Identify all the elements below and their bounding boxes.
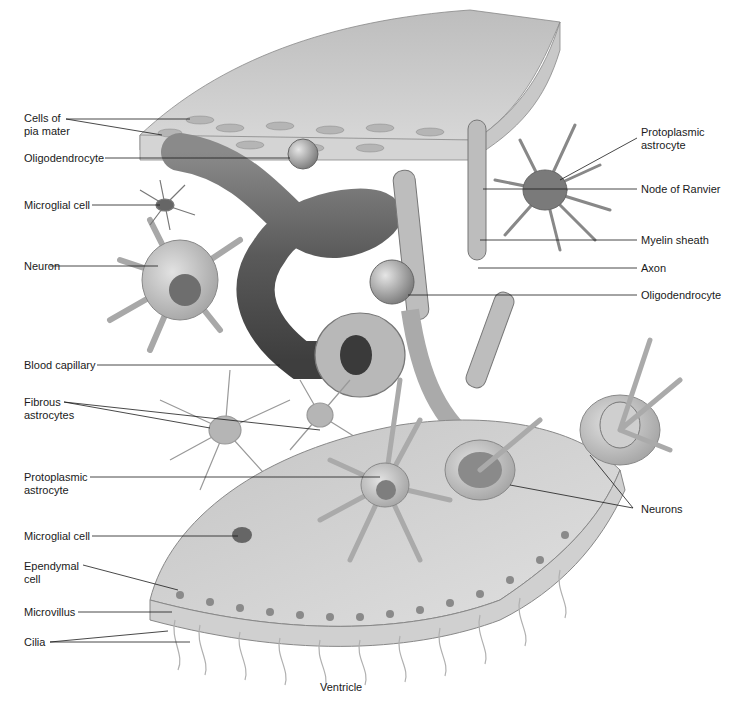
label-fibrous-astrocytes: Fibrous astrocytes [24, 396, 74, 422]
neuron-left [110, 220, 240, 350]
label-protoplasmic-astrocyte-left: Protoplasmic astrocyte [24, 471, 88, 497]
label-cells-of-pia-mater: Cells of pia mater [24, 112, 70, 138]
microglial-cell-bottom [232, 527, 252, 543]
label-ependymal-cell: Ependymal cell [24, 560, 79, 586]
label-microglial-cell-top: Microglial cell [24, 199, 90, 212]
label-oligodendrocyte-right: Oligodendrocyte [641, 289, 721, 302]
label-cilia: Cilia [24, 636, 45, 649]
label-blood-capillary: Blood capillary [24, 359, 96, 372]
label-microglial-cell-bottom: Microglial cell [24, 530, 90, 543]
pia-mater [140, 10, 560, 160]
label-microvillus: Microvillus [24, 606, 75, 619]
oligodendrocyte-center [370, 260, 414, 304]
oligodendrocyte-top [288, 139, 318, 169]
label-neurons: Neurons [641, 503, 683, 516]
label-myelin-sheath: Myelin sheath [641, 234, 709, 247]
neuroglia-illustration [0, 0, 738, 705]
protoplasmic-astrocyte-right [495, 125, 610, 250]
label-node-of-ranvier: Node of Ranvier [641, 183, 721, 196]
label-axon: Axon [641, 262, 666, 275]
label-protoplasmic-astrocyte-right: Protoplasmic astrocyte [641, 126, 705, 152]
label-neuron: Neuron [24, 260, 60, 273]
label-oligodendrocyte-left: Oligodendrocyte [24, 152, 104, 165]
label-ventricle: Ventricle [320, 681, 362, 694]
